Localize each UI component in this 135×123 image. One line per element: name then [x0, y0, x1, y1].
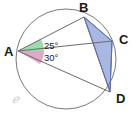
vertex-label-b: B	[79, 0, 88, 15]
vertex-label-c: C	[119, 32, 129, 47]
angle-label-cad: 30°	[44, 52, 59, 63]
script-c-watermark: ℯ	[12, 92, 21, 106]
vertex-label-a: A	[4, 44, 14, 59]
angle-label-bac: 25°	[44, 40, 59, 51]
geometry-canvas: A B C D 25° 30° ℯ	[0, 0, 135, 123]
vertex-label-d: D	[116, 91, 125, 106]
geometry-figure: A B C D 25° 30° ℯ	[0, 0, 135, 123]
segment-AD	[18, 51, 110, 92]
